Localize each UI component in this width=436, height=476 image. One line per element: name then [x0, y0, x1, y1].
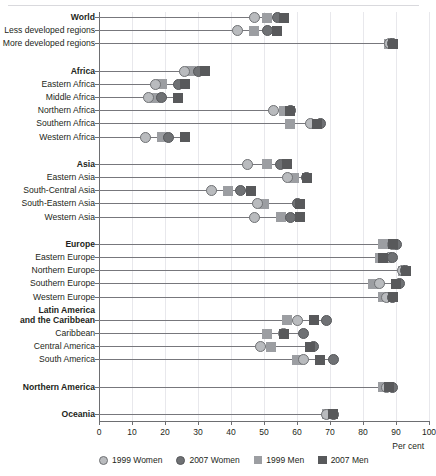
row-label-western-africa: Western Africa — [0, 132, 95, 143]
legend-item[interactable]: 2007 Men — [318, 455, 368, 465]
row-connector-line — [99, 217, 300, 218]
data-point-2007-men — [378, 253, 388, 263]
x-tick-label-80: 80 — [358, 427, 367, 437]
legend-item[interactable]: 1999 Men — [254, 455, 304, 465]
data-point-1999-men — [262, 329, 272, 339]
row-connector-line — [99, 84, 185, 85]
row-label-western-europe: Western Europe — [0, 292, 95, 303]
data-point-2007-men — [302, 173, 312, 183]
row-connector-line — [99, 43, 393, 44]
chart-row: Northern America — [0, 382, 427, 396]
row-label-southern-africa: Southern Africa — [0, 118, 95, 129]
chart-row: Eastern Africa — [0, 79, 427, 93]
x-tick-label-50: 50 — [259, 427, 268, 437]
data-point-2007-men — [305, 342, 315, 352]
chart-legend: 1999 Women2007 Women1999 Men2007 Men — [99, 455, 382, 465]
chart-row: World — [0, 12, 427, 26]
chart-row: Oceania — [0, 409, 427, 423]
row-connector-line — [99, 270, 406, 271]
row-label-northern-europe: Northern Europe — [0, 265, 95, 276]
data-point-2007-women — [262, 25, 273, 36]
data-point-2007-men — [388, 239, 398, 249]
data-point-1999-women — [249, 212, 260, 223]
data-point-2007-men — [282, 159, 292, 169]
data-point-2007-women — [163, 132, 174, 143]
row-label-eastern-europe: Eastern Europe — [0, 252, 95, 263]
row-connector-line — [99, 164, 287, 165]
data-point-2007-men — [295, 199, 305, 209]
legend-label: 1999 Women — [112, 455, 162, 465]
row-label-central-america: Central America — [0, 341, 95, 352]
row-connector-line — [99, 333, 304, 334]
data-point-2007-men — [309, 315, 319, 325]
chart-row: Western Asia — [0, 212, 427, 226]
data-point-1999-women — [282, 172, 293, 183]
row-label-world: World — [0, 12, 95, 23]
row-connector-line — [99, 203, 300, 204]
legend-label: 2007 Women — [189, 455, 239, 465]
row-label-latin-america-and-the-caribbean: Latin Americaand the Caribbean — [0, 305, 95, 326]
data-point-1999-men — [262, 159, 272, 169]
data-point-1999-women — [242, 159, 253, 170]
row-connector-line — [99, 257, 393, 258]
x-tick-label-10: 10 — [127, 427, 136, 437]
row-connector-line — [99, 244, 396, 245]
data-point-1999-men — [223, 186, 233, 196]
x-tick-label-70: 70 — [325, 427, 334, 437]
data-point-1999-men — [285, 119, 295, 129]
data-point-2007-men — [180, 79, 190, 89]
row-label-asia: Asia — [0, 159, 95, 170]
legend-label: 1999 Men — [266, 455, 304, 465]
data-point-1999-women — [140, 132, 151, 143]
x-axis-title: Per cent — [392, 441, 424, 451]
data-point-2007-men — [173, 93, 183, 103]
data-point-2007-women — [156, 92, 167, 103]
row-connector-line — [99, 110, 290, 111]
data-point-1999-women — [232, 25, 243, 36]
row-label-oceania: Oceania — [0, 409, 95, 420]
x-tick-label-60: 60 — [292, 427, 301, 437]
data-point-1999-women — [150, 79, 161, 90]
data-point-2007-men — [200, 66, 210, 76]
legend-item[interactable]: 2007 Women — [176, 455, 239, 465]
data-point-1999-women — [143, 92, 154, 103]
data-point-1999-men — [249, 26, 259, 36]
data-point-2007-men — [391, 279, 401, 289]
legend-label: 2007 Men — [331, 455, 369, 465]
data-point-2007-men — [246, 186, 256, 196]
row-label-western-asia: Western Asia — [0, 212, 95, 223]
chart-row: Less developed regions — [0, 25, 427, 39]
legend-item[interactable]: 1999 Women — [99, 455, 162, 465]
chart-row: Eastern Asia — [0, 172, 427, 186]
data-point-1999-men — [266, 342, 276, 352]
data-point-1999-men — [262, 13, 272, 23]
data-point-2007-women — [387, 252, 398, 263]
data-point-2007-men — [388, 292, 398, 302]
row-label-northern-america: Northern America — [0, 382, 95, 393]
row-label-less-developed-regions: Less developed regions — [0, 25, 95, 36]
chart-row: Northern Europe — [0, 265, 427, 279]
chart-row: Caribbean — [0, 328, 427, 342]
legend-swatch-circle-icon — [176, 456, 185, 465]
x-tick-label-40: 40 — [226, 427, 235, 437]
data-point-2007-men — [279, 329, 289, 339]
row-label-more-developed-regions: More developed regions — [0, 38, 95, 49]
legend-swatch-circle-icon — [99, 456, 108, 465]
chart-row: Middle Africa — [0, 92, 427, 106]
data-point-2007-men — [180, 132, 190, 142]
legend-swatch-square-icon — [318, 456, 327, 465]
chart-row: Southern Africa — [0, 118, 427, 132]
data-point-1999-men — [282, 315, 292, 325]
chart-row: South-Central Asia — [0, 185, 427, 199]
row-label-northern-africa: Northern Africa — [0, 105, 95, 116]
chart-row: South-Eastern Asia — [0, 198, 427, 212]
row-label-africa: Africa — [0, 66, 95, 77]
row-connector-line — [99, 283, 399, 284]
row-connector-line — [99, 346, 314, 347]
data-point-1999-women — [298, 354, 309, 365]
chart-row: Africa — [0, 66, 427, 80]
x-tick-label-0: 0 — [97, 427, 102, 437]
row-label-eastern-africa: Eastern Africa — [0, 79, 95, 90]
row-label-middle-africa: Middle Africa — [0, 92, 95, 103]
